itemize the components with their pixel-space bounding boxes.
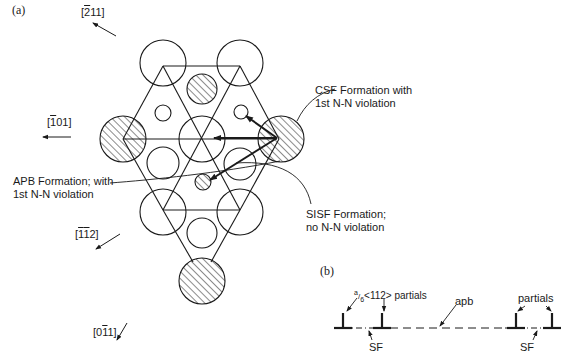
- panel-a-label: (a): [12, 4, 25, 17]
- direction-label-101: [101]: [47, 116, 71, 129]
- sf-left-label: SF: [369, 341, 383, 354]
- atom-medium-open: [224, 148, 256, 180]
- atoms: [100, 40, 304, 304]
- atom-large-hatched: [179, 258, 225, 304]
- atom-large-hatched: [100, 116, 146, 162]
- atom-large-open: [217, 189, 263, 235]
- atom-medium-open: [187, 218, 217, 248]
- atom-large-open: [140, 40, 186, 86]
- atom-large-open: [140, 189, 186, 235]
- arrow-211: [93, 23, 116, 36]
- atom-small-hatched: [195, 174, 211, 190]
- atom-small-open: [155, 105, 171, 121]
- sisf-vector: [210, 138, 277, 180]
- csf-annotation: CSF Formation with 1st N-N violation: [315, 84, 412, 110]
- partials-left-label: a/6<112> partials: [354, 286, 427, 306]
- arrow-112: [96, 234, 120, 249]
- arrow-011: [117, 323, 127, 340]
- partials-right-label: partials: [518, 292, 553, 305]
- atom-medium-open: [147, 147, 179, 179]
- direction-label-112: [112]: [75, 228, 99, 241]
- atom-medium-hatched: [187, 74, 217, 104]
- direction-label-211: [211]: [81, 6, 105, 19]
- apb-label: apb: [455, 295, 473, 308]
- apb-annotation: APB Formation; with 1st N-N violation: [13, 175, 113, 201]
- sisf-annotation: SISF Formation; no N-N violation: [306, 208, 386, 234]
- atom-large-open: [217, 40, 263, 86]
- sf-right-label: SF: [520, 341, 534, 354]
- panel-b-label: (b): [320, 265, 334, 278]
- direction-label-011: [011]: [93, 326, 117, 339]
